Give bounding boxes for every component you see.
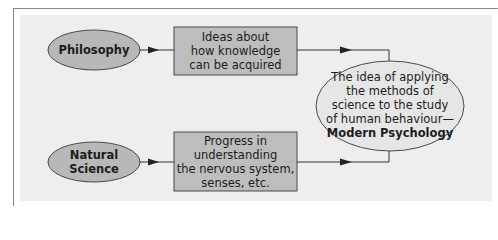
progress-box-line-2: understanding [174,148,297,162]
natural-science-label-line-2: Science [48,162,140,176]
progress-box-line-4: senses, etc. [174,176,297,190]
edge-ideas-to-modern-psychology [297,47,389,62]
edge-progress-to-modern-psychology [297,151,389,166]
natural-science-label: Natural Science [48,148,140,176]
philosophy-label: Philosophy [48,43,140,57]
ideas-box-line-1: Ideas about [174,30,297,44]
modern-psychology-text: The idea of applying the methods of scie… [316,70,464,140]
progress-box-line-3: the nervous system, [174,162,297,176]
edge-philosophy-to-ideas [140,47,174,54]
ideas-box-line-2: how knowledge [174,44,297,58]
ideas-box-line-3: can be acquired [174,58,297,72]
modern-psychology-line-1: The idea of applying [316,70,464,84]
modern-psychology-line-2: the methods of [316,84,464,98]
edge-natural-science-to-progress [140,159,174,166]
philosophy-label-line: Philosophy [48,43,140,57]
modern-psychology-emphasis: Modern Psychology [316,126,464,140]
progress-box-text: Progress in understanding the nervous sy… [174,134,297,190]
natural-science-label-line-1: Natural [48,148,140,162]
modern-psychology-line-4: of human behaviour— [316,112,464,126]
ideas-box-text: Ideas about how knowledge can be acquire… [174,30,297,72]
progress-box-line-1: Progress in [174,134,297,148]
modern-psychology-line-3: science to the study [316,98,464,112]
